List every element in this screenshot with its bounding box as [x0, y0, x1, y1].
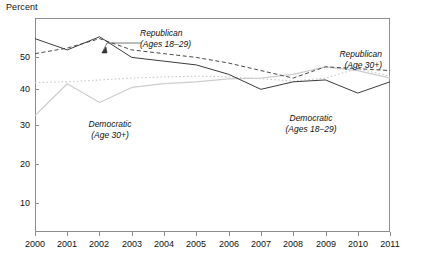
x-tick-label-2003: 2003 — [115, 239, 149, 249]
x-tick-mark-2001 — [67, 232, 68, 236]
annotation-republican-age-30plus-line1: Republican — [300, 49, 382, 60]
x-tick-mark-2002 — [99, 232, 100, 236]
y-tick-label-40: 40 — [8, 84, 30, 94]
series-democratic-ages18-29 — [35, 67, 390, 116]
annotation-republican-ages-18-29: Republican (Ages 18–29) — [140, 28, 191, 49]
x-tick-label-2007: 2007 — [244, 239, 278, 249]
annotation-democratic-age-30plus: Democratic (Age 30+) — [64, 119, 156, 140]
annotation-democratic-age-30plus-line2: (Age 30+) — [64, 130, 156, 141]
y-tick-label-30: 30 — [8, 120, 30, 130]
annotation-republican-age-30plus: Republican (Age 30+) — [300, 49, 382, 70]
x-tick-mark-2009 — [326, 232, 327, 236]
x-tick-label-2009: 2009 — [309, 239, 343, 249]
x-tick-mark-2003 — [132, 232, 133, 236]
annotation-democratic-ages-18-29-line2: (Ages 18–29) — [263, 124, 359, 135]
x-tick-mark-2000 — [35, 232, 36, 236]
annotation-democratic-ages-18-29: Democratic (Ages 18–29) — [263, 113, 359, 134]
y-tick-label-20: 20 — [8, 159, 30, 169]
x-tick-label-2008: 2008 — [276, 239, 310, 249]
x-tick-label-2002: 2002 — [82, 239, 116, 249]
x-tick-mark-2010 — [358, 232, 359, 236]
x-tick-mark-2006 — [229, 232, 230, 236]
x-tick-label-2005: 2005 — [179, 239, 213, 249]
annotation-republican-ages-18-29-line2: (Ages 18–29) — [140, 39, 191, 50]
annotation-democratic-ages-18-29-line1: Democratic — [263, 113, 359, 124]
annotation-republican-ages-18-29-line1: Republican — [140, 28, 191, 39]
y-tick-label-50: 50 — [8, 52, 30, 62]
annotation-republican-age-30plus-line2: (Age 30+) — [300, 60, 382, 71]
x-tick-label-2011: 2011 — [373, 239, 407, 249]
x-tick-label-2006: 2006 — [212, 239, 246, 249]
y-axis-title: Percent — [6, 2, 38, 12]
x-tick-label-2010: 2010 — [341, 239, 375, 249]
x-tick-mark-2004 — [164, 232, 165, 236]
x-tick-mark-2011 — [390, 232, 391, 236]
annotation-democratic-age-30plus-line1: Democratic — [64, 119, 156, 130]
x-tick-label-2000: 2000 — [18, 239, 52, 249]
x-tick-mark-2005 — [196, 232, 197, 236]
y-tick-label-10: 10 — [8, 198, 30, 208]
x-tick-label-2001: 2001 — [50, 239, 84, 249]
x-tick-mark-2008 — [293, 232, 294, 236]
x-tick-label-2004: 2004 — [147, 239, 181, 249]
chart-container: Percent 50 40 30 20 10 2000 2001 2002 20… — [0, 0, 428, 262]
x-tick-mark-2007 — [261, 232, 262, 236]
